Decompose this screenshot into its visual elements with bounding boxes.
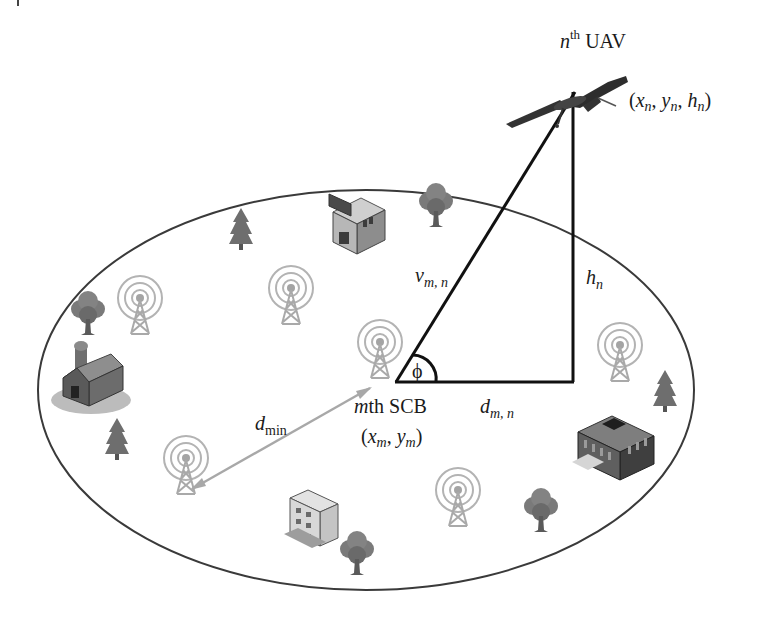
scb-tower-icon [118,276,162,334]
oak-tree-icon [340,531,374,575]
scb-tower-icon [598,323,642,381]
oak-tree-icon [524,488,558,532]
pine-tree-icon [229,208,253,250]
uav-aircraft-icon [506,76,628,128]
shop-building-icon [329,194,385,254]
height-label: hn [586,266,603,292]
scb-coordinates-label: (xm, ym) [361,425,422,450]
ground-distance-label: dm, n [480,395,514,421]
slant-range-label: vm, n [415,264,448,290]
dmin-arrow [190,387,372,490]
oak-tree-icon [419,183,453,227]
apartment-building-icon [284,490,338,548]
geometry-triangle [395,92,575,382]
scb-tower-icon [436,468,480,526]
scb-label: mth SCB [354,395,427,417]
slant-range-line [396,92,575,382]
scb-tower-icon-mth [358,320,402,378]
min-distance-label: dmin [255,412,287,438]
corner-mark [17,0,19,6]
barn-building-icon [51,341,131,414]
office-building-icon [572,416,654,480]
pine-tree-icon [105,418,129,460]
scb-tower-icon [269,266,313,324]
diagram-canvas: nth UAV (xn, yn, hn) vm, n hn ϕ mth SCB … [0,0,767,617]
pine-tree-icon [653,370,677,412]
uav-coordinates-label: (xn, yn, hn) [629,89,711,114]
angle-phi-label: ϕ [412,360,423,383]
uav-label: nth UAV [560,27,626,52]
